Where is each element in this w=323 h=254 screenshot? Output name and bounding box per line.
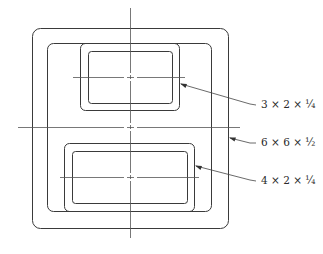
leaders <box>180 84 256 182</box>
top-tube-leader <box>180 84 256 106</box>
top-tube-label: 3 × 2 × ¼ <box>261 98 315 110</box>
bottom-tube-label: 4 × 2 × ¼ <box>261 174 315 186</box>
tube-section-drawing: 3 × 2 × ¼ 6 × 6 × ½ 4 × 2 × ¼ <box>0 0 323 254</box>
top-tube <box>81 44 180 111</box>
outer-tube-leader <box>229 138 256 144</box>
arrowhead-icon <box>195 166 202 171</box>
arrowhead-icon <box>229 138 236 142</box>
top-tube-outer-wall <box>81 44 180 111</box>
outer-tube-label: 6 × 6 × ½ <box>261 136 315 148</box>
arrowhead-icon <box>180 84 187 89</box>
bottom-tube-leader <box>195 166 256 182</box>
